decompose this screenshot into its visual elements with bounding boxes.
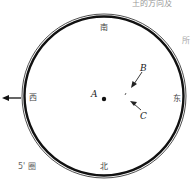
point-c-label: C bbox=[140, 112, 147, 121]
arrow-c-line bbox=[134, 104, 141, 110]
direction-south-label: 南 bbox=[100, 24, 108, 32]
point-a-label: A bbox=[91, 90, 98, 99]
direction-west-label: 西 bbox=[29, 94, 37, 102]
caption-label: 5' 圈 bbox=[18, 163, 36, 171]
arrow-b-head bbox=[131, 81, 137, 88]
west-arrow-head bbox=[2, 95, 9, 101]
inner-ring bbox=[25, 17, 184, 176]
target-mark bbox=[125, 93, 126, 95]
point-a-dot bbox=[102, 97, 106, 101]
outer-ring bbox=[22, 14, 186, 178]
direction-east-label: 东 bbox=[173, 95, 181, 103]
point-b-label: B bbox=[140, 64, 147, 73]
direction-north-label: 北 bbox=[100, 163, 108, 171]
arrow-b-line bbox=[134, 72, 142, 84]
